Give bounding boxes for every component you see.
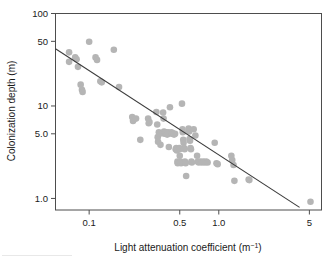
trendline-layer [56, 49, 300, 208]
data-point [189, 159, 196, 166]
data-point [307, 199, 314, 206]
y-tick-label: 50 [37, 36, 48, 47]
x-axis-title-close: ) [258, 242, 261, 253]
data-point [133, 115, 140, 122]
data-point [214, 161, 221, 168]
plot-frame [56, 14, 322, 211]
data-point [94, 57, 101, 64]
x-tick-label: 5 [307, 217, 312, 228]
data-point [166, 144, 173, 151]
y-tick-label: 1.0 [35, 193, 48, 204]
data-point [172, 131, 179, 138]
data-point [179, 100, 186, 107]
data-point [160, 109, 167, 116]
y-tick-label: 5.0 [35, 128, 48, 139]
data-points-layer [66, 38, 314, 205]
data-point [111, 47, 118, 54]
data-point [183, 173, 190, 180]
data-point [176, 152, 183, 159]
figure-container: 1.05.01050100 0.10.51.05 Light attenuati… [0, 0, 332, 262]
data-point [116, 84, 123, 91]
x-axis: 0.10.51.05 [83, 210, 312, 228]
x-tick-label: 0.5 [173, 217, 186, 228]
scatter-plot: 1.05.01050100 0.10.51.05 Light attenuati… [0, 0, 332, 262]
x-tick-label: 1.0 [212, 217, 225, 228]
data-point [167, 104, 174, 111]
plot-frame-rect [56, 14, 322, 211]
data-point [182, 160, 189, 167]
data-point [194, 152, 201, 159]
y-tick-label: 10 [37, 100, 48, 111]
data-point [86, 38, 93, 45]
data-point [157, 142, 164, 149]
y-tick-label: 100 [32, 8, 48, 19]
data-point [154, 121, 161, 128]
x-axis-title-base: Light attenuation coefficient (m [114, 242, 250, 253]
y-axis-title: Colonization depth (m) [6, 61, 17, 162]
data-point [181, 146, 188, 153]
data-point [211, 139, 218, 146]
x-tick-label: 0.1 [83, 217, 96, 228]
data-point [204, 159, 211, 166]
y-axis: 1.05.01050100 [32, 8, 55, 204]
data-point [231, 178, 238, 185]
data-point [146, 119, 153, 126]
data-point [246, 177, 253, 184]
x-axis-title-exponent: −1 [250, 242, 258, 249]
data-point [187, 138, 194, 145]
x-axis-title: Light attenuation coefficient (m−1) [114, 242, 261, 254]
data-point [190, 126, 197, 133]
regression-trendline [56, 49, 300, 208]
data-point [66, 49, 73, 56]
data-point [137, 137, 144, 144]
data-point [188, 146, 195, 153]
data-point [79, 89, 86, 96]
